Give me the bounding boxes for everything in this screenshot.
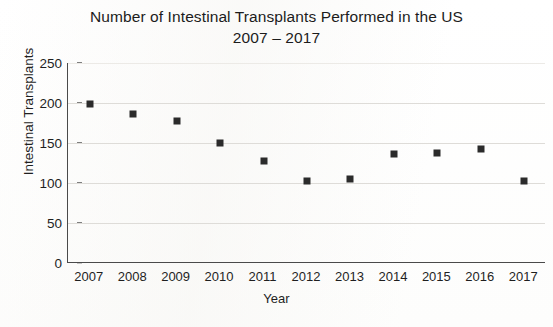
data-point xyxy=(173,117,180,124)
data-point xyxy=(521,177,528,184)
y-tick-label: 50 xyxy=(16,216,62,231)
data-point xyxy=(217,140,224,147)
y-tick-label: 150 xyxy=(16,136,62,151)
x-axis-title: Year xyxy=(0,291,553,306)
data-point xyxy=(434,150,441,157)
y-axis-tick-labels: 050100150200250 xyxy=(12,0,62,327)
data-point xyxy=(477,145,484,152)
data-point xyxy=(347,176,354,183)
gridline xyxy=(68,63,545,64)
data-point xyxy=(260,158,267,165)
chart-title: Number of Intestinal Transplants Perform… xyxy=(0,6,553,48)
gridline xyxy=(68,143,545,144)
chart-title-line2: 2007 – 2017 xyxy=(0,27,553,48)
data-point xyxy=(390,151,397,158)
y-tick-label: 0 xyxy=(16,256,62,271)
chart-figure: Number of Intestinal Transplants Perform… xyxy=(0,0,553,327)
gridline xyxy=(68,103,545,104)
chart-title-line1: Number of Intestinal Transplants Perform… xyxy=(90,8,463,25)
data-point xyxy=(86,100,93,107)
gridline xyxy=(68,223,545,224)
y-tick-label: 100 xyxy=(16,176,62,191)
x-tick-label: 2017 xyxy=(497,269,549,284)
plot-area xyxy=(67,63,545,263)
data-point xyxy=(130,111,137,118)
y-tick-label: 250 xyxy=(16,56,62,71)
y-tick-label: 200 xyxy=(16,96,62,111)
data-point xyxy=(304,177,311,184)
